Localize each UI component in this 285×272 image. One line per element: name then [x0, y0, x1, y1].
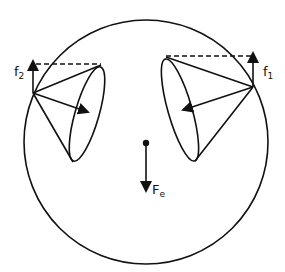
diagram-svg	[0, 0, 285, 272]
label-f1: f1	[263, 65, 273, 81]
diagram-canvas: f2 f1 Fe	[0, 0, 285, 272]
right-cone	[154, 56, 253, 165]
right-cone-arrow	[183, 87, 253, 110]
label-f2: f2	[14, 65, 24, 81]
left-cone	[33, 64, 112, 165]
label-fe: Fe	[152, 183, 165, 199]
